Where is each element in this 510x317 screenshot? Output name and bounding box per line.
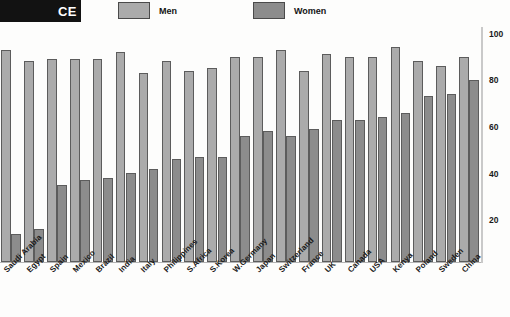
bar-women [378, 117, 388, 262]
bar-men [391, 47, 401, 262]
bar-group [1, 24, 23, 262]
bar-women [424, 96, 434, 262]
bar-men [368, 57, 378, 262]
bar-men [70, 59, 80, 262]
bar-group [253, 24, 275, 262]
bar-women [469, 80, 479, 262]
x-axis-labels: Saudi ArabiaEgyptSpainMexicoBrazilIndiaI… [0, 264, 481, 317]
bar-women [172, 159, 182, 262]
y-tick-label: 100 [489, 29, 503, 39]
bar-women [126, 173, 136, 262]
legend-label-men: Men [159, 6, 177, 16]
y-tick-label: 60 [489, 122, 498, 132]
bar-men [47, 59, 57, 262]
bar-groups-container [0, 24, 481, 262]
bar-women [57, 185, 67, 262]
bar-group [24, 24, 46, 262]
bar-men [299, 71, 309, 262]
bar-group [391, 24, 413, 262]
bar-group [299, 24, 321, 262]
bar-men [24, 61, 34, 262]
bar-women [103, 178, 113, 262]
bar-men [184, 71, 194, 262]
y-axis-line [481, 27, 483, 263]
bar-men [230, 57, 240, 262]
bar-group [93, 24, 115, 262]
y-tick-label: 80 [489, 75, 498, 85]
bar-group [276, 24, 298, 262]
bar-group [70, 24, 92, 262]
bar-group [207, 24, 229, 262]
bar-women [355, 120, 365, 262]
bar-men [139, 73, 149, 262]
bar-men [459, 57, 469, 262]
bar-men [322, 54, 332, 262]
bar-men [207, 68, 217, 262]
bar-men [93, 59, 103, 262]
y-tick-label: 20 [489, 215, 498, 225]
bar-women [286, 136, 296, 262]
bar-group [368, 24, 390, 262]
banner-title-text: CE [58, 4, 77, 19]
bar-women [149, 169, 159, 262]
bar-group [47, 24, 69, 262]
bar-women [447, 94, 457, 262]
bar-chart: CE Men Women 10080604020 Saudi ArabiaEgy… [0, 0, 510, 317]
chart-legend: Men Women [118, 2, 368, 22]
plot-area: 10080604020 Saudi ArabiaEgyptSpainMexico… [0, 24, 510, 317]
bar-group [230, 24, 252, 262]
bar-group [413, 24, 435, 262]
bar-women [218, 157, 228, 262]
bar-group [322, 24, 344, 262]
bar-group [436, 24, 458, 262]
bar-men [116, 52, 126, 262]
bar-group [139, 24, 161, 262]
bar-group [116, 24, 138, 262]
bar-women [332, 120, 342, 262]
bar-men [162, 61, 172, 262]
legend-swatch-icon-women [253, 2, 285, 19]
bar-group [345, 24, 367, 262]
bar-group [459, 24, 481, 262]
bar-men [436, 66, 446, 262]
title-banner: CE [0, 0, 81, 22]
legend-label-women: Women [294, 6, 326, 16]
bar-men [276, 50, 286, 262]
legend-item-women: Women [253, 2, 326, 19]
bar-men [413, 61, 423, 262]
legend-swatch-icon-men [118, 2, 150, 19]
bar-men [253, 57, 263, 262]
y-tick-label: 40 [489, 169, 498, 179]
bar-women [401, 113, 411, 262]
bar-women [240, 136, 250, 262]
bar-men [1, 50, 11, 262]
bar-group [162, 24, 184, 262]
legend-item-men: Men [118, 2, 177, 19]
bar-men [345, 57, 355, 262]
bar-group [184, 24, 206, 262]
